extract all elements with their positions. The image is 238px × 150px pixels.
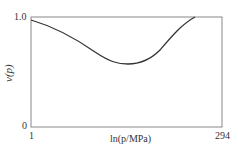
y-tick-top: 1.0 xyxy=(14,11,27,22)
x-tick-right: 294 xyxy=(215,130,230,141)
chart-plot xyxy=(0,0,238,150)
y-tick-bottom: 0 xyxy=(22,120,27,131)
plot-frame xyxy=(31,17,222,127)
x-tick-left: 1 xyxy=(29,130,34,141)
data-curve xyxy=(31,17,195,64)
x-axis-label: ln(p/MPa) xyxy=(110,133,151,144)
y-axis-label: ν(p) xyxy=(2,64,14,82)
